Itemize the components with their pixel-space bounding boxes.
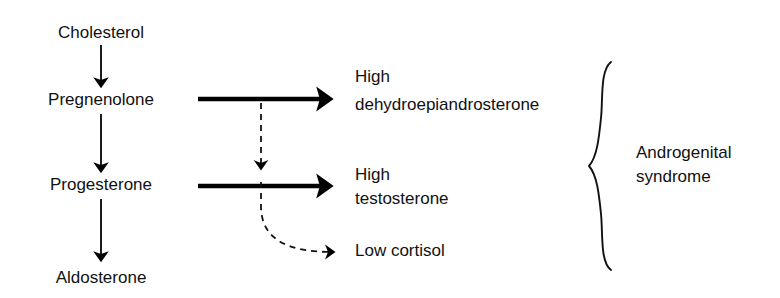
outcome-label-testosterone-line2: testosterone bbox=[355, 189, 449, 208]
bracket-label-line2: syndrome bbox=[636, 167, 711, 186]
node-label-aldosterone: Aldosterone bbox=[56, 268, 147, 287]
outcome-label-dhea-line1: High bbox=[355, 67, 390, 86]
node-label-progesterone: Progesterone bbox=[50, 175, 152, 194]
node-label-pregnenolone: Pregnenolone bbox=[48, 90, 154, 109]
curly-brace bbox=[589, 62, 611, 270]
outcome-label-dhea-line2: dehydroepiandrosterone bbox=[355, 95, 539, 114]
node-label-cholesterol: Cholesterol bbox=[58, 23, 144, 42]
pathway-diagram: Cholesterol Pregnenolone Progesterone Al… bbox=[0, 0, 780, 298]
outcome-label-testosterone-line1: High bbox=[355, 165, 390, 184]
outcome-label-low-cortisol: Low cortisol bbox=[355, 241, 445, 260]
bracket-label-line1: Androgenital bbox=[636, 143, 731, 162]
dashed-branch-to-low-cortisol bbox=[261, 182, 333, 252]
pathway-svg: Cholesterol Pregnenolone Progesterone Al… bbox=[0, 0, 780, 298]
